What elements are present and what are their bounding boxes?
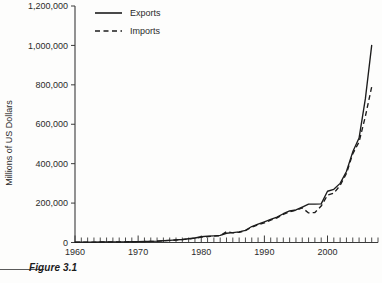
legend-label-exports: Exports	[130, 8, 161, 18]
trade-line-chart: Millions of US Dollars 0200,000400,00060…	[0, 0, 382, 283]
legend-label-imports: Imports	[130, 26, 161, 36]
x-tick-label: 1960	[65, 247, 85, 257]
figure-caption: Figure 3.1	[29, 262, 77, 273]
x-tick-label: 2000	[317, 247, 337, 257]
chart-legend: Exports Imports	[95, 8, 161, 36]
x-axis-tick-labels: 19601970198019902000	[65, 247, 338, 257]
x-tick-label: 1990	[254, 247, 274, 257]
y-axis-title-group: Millions of US Dollars	[4, 100, 14, 186]
y-tick-label: 1,000,000	[28, 41, 68, 51]
data-series-group	[75, 45, 372, 242]
series-line-exports	[75, 45, 372, 242]
y-tick-label: 1,200,000	[28, 1, 68, 11]
x-tick-label: 1980	[191, 247, 211, 257]
y-tick-label: 400,000	[35, 159, 68, 169]
x-tick-label: 1970	[128, 247, 148, 257]
y-axis-tick-labels: 0200,000400,000600,000800,0001,000,0001,…	[28, 1, 68, 248]
y-axis-tick-marks	[71, 6, 75, 243]
y-tick-label: 200,000	[35, 198, 68, 208]
y-axis-title: Millions of US Dollars	[4, 100, 14, 186]
y-tick-label: 800,000	[35, 80, 68, 90]
series-line-imports	[75, 87, 372, 242]
axis-lines	[75, 6, 378, 243]
figure-container: Millions of US Dollars 0200,000400,00060…	[0, 0, 382, 283]
y-tick-label: 600,000	[35, 119, 68, 129]
